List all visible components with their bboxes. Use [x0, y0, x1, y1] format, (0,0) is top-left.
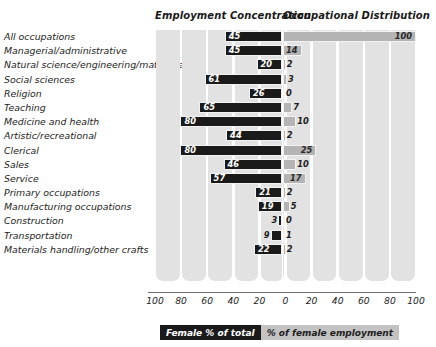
bar-value-label: 2	[287, 131, 293, 140]
bar-value-label: 0	[286, 89, 292, 98]
axis-tick-label: 40	[220, 295, 246, 306]
category-label: Primary occupations	[4, 186, 154, 200]
zero-axis-line	[282, 30, 283, 281]
category-label: Clerical	[4, 144, 154, 158]
bar-value-label: 44	[230, 131, 242, 140]
chart-row: 91	[155, 229, 416, 243]
category-label-list: All occupationsManagerial/administrative…	[4, 30, 154, 257]
bar-value-label: 80	[184, 146, 196, 155]
bar-value-label: 45	[229, 46, 241, 55]
bar-value-label: 80	[184, 117, 196, 126]
chart-row: 4514	[155, 44, 416, 58]
bar-value-label: 0	[286, 216, 292, 225]
category-label: Medicine and health	[4, 115, 154, 129]
chart-row: 260	[155, 87, 416, 101]
bar-value-label: 45	[229, 32, 241, 41]
bar-female-pct-of-total: 46	[224, 159, 282, 170]
bar-pct-of-female-employment: 17	[283, 173, 306, 184]
bar-pct-of-female-employment: 10	[283, 116, 296, 127]
bar-value-label: 65	[203, 103, 215, 112]
chart-row: 5717	[155, 172, 416, 186]
chart-row: 442	[155, 129, 416, 143]
legend-item-female-pct-of-total: Female % of total	[160, 325, 261, 340]
chart-row: 212	[155, 186, 416, 200]
bar-pct-of-female-employment: 2	[283, 59, 286, 70]
bar-value-label: 10	[297, 117, 309, 126]
chart-figure: Employment Concentration Occupational Di…	[0, 0, 436, 347]
bar-female-pct-of-total: 45	[225, 45, 282, 56]
axis-tick-label: 80	[377, 295, 403, 306]
chart-row: 45100	[155, 30, 416, 44]
bar-value-label: 22	[258, 245, 270, 254]
bar-pct-of-female-employment: 2	[283, 187, 286, 198]
chart-row: 30	[155, 214, 416, 228]
bar-value-label: 20	[261, 60, 273, 69]
chart-row: 8025	[155, 144, 416, 158]
bar-female-pct-of-total: 80	[180, 145, 282, 156]
bar-pct-of-female-employment: 100	[283, 31, 416, 42]
bar-female-pct-of-total: 45	[225, 31, 282, 42]
bar-value-label: 2	[287, 245, 293, 254]
bar-female-pct-of-total: 21	[255, 187, 282, 198]
axis-rule	[148, 292, 416, 293]
bar-pct-of-female-employment: 14	[283, 45, 302, 56]
bar-value-label: 2	[287, 188, 293, 197]
bar-female-pct-of-total: 44	[226, 130, 282, 141]
bar-female-pct-of-total: 65	[199, 102, 282, 113]
plot-area: 4510045142026132606578010442802546105717…	[155, 30, 416, 281]
bar-pct-of-female-employment: 0	[283, 215, 285, 226]
category-label: Manufacturing occupations	[4, 200, 154, 214]
chart-row: 222	[155, 243, 416, 257]
category-label: Teaching	[4, 101, 154, 115]
chart-row: 657	[155, 101, 416, 115]
bar-value-label: 57	[214, 174, 226, 183]
bar-pct-of-female-employment: 1	[283, 230, 285, 241]
bar-value-label: 7	[293, 103, 299, 112]
category-label: Social sciences	[4, 73, 154, 87]
axis-tick-label: 20	[246, 295, 272, 306]
right-panel-title: Occupational Distribution	[283, 10, 415, 21]
bar-pct-of-female-employment: 7	[283, 102, 292, 113]
category-label: Religion	[4, 87, 154, 101]
bar-value-label: 19	[262, 202, 274, 211]
chart-row: 613	[155, 73, 416, 87]
chart-row: 8010	[155, 115, 416, 129]
bar-female-pct-of-total: 19	[258, 201, 282, 212]
bar-female-pct-of-total: 61	[205, 74, 282, 85]
axis-tick-label: 0	[273, 295, 299, 306]
bar-value-label: 5	[291, 202, 297, 211]
bar-female-pct-of-total: 57	[210, 173, 282, 184]
bar-female-pct-of-total: 80	[180, 116, 282, 127]
bar-value-label: 14	[286, 46, 298, 55]
bar-female-pct-of-total: 20	[257, 59, 282, 70]
axis-tick-label: 60	[351, 295, 377, 306]
bar-pct-of-female-employment: 5	[283, 201, 290, 212]
bar-pct-of-female-employment: 25	[283, 145, 316, 156]
axis-tick-label: 60	[194, 295, 220, 306]
bar-value-label: 9	[264, 231, 270, 240]
category-label: Transportation	[4, 229, 154, 243]
bar-pct-of-female-employment: 3	[283, 74, 287, 85]
bar-value-label: 100	[395, 32, 412, 41]
category-label: Construction	[4, 214, 154, 228]
axis-tick-label: 80	[168, 295, 194, 306]
bar-value-label: 21	[259, 188, 271, 197]
bar-value-label: 2	[287, 60, 293, 69]
bar-pct-of-female-employment: 0	[283, 88, 285, 99]
category-label: Managerial/administrative	[4, 44, 154, 58]
legend-item-pct-of-female-employment: % of female employment	[261, 325, 399, 340]
category-label: Sales	[4, 158, 154, 172]
bar-value-label: 3	[288, 75, 294, 84]
axis-tick-label: 100	[403, 295, 429, 306]
category-label: All occupations	[4, 30, 154, 44]
left-panel-title: Employment Concentration	[155, 10, 282, 21]
legend: Female % of total % of female employment	[160, 325, 399, 340]
bar-value-label: 10	[297, 160, 309, 169]
bar-rows: 4510045142026132606578010442802546105717…	[155, 30, 416, 257]
bar-female-pct-of-total: 26	[249, 88, 282, 99]
bar-pct-of-female-employment: 2	[283, 130, 286, 141]
axis-tick-label: 40	[325, 295, 351, 306]
bar-value-label: 61	[209, 75, 221, 84]
bar-female-pct-of-total: 9	[271, 230, 282, 241]
category-label: Artistic/recreational	[4, 129, 154, 143]
